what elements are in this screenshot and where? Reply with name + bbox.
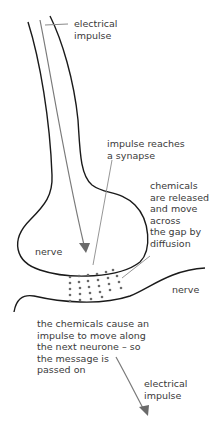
label-impulse-reaches: impulse reaches a synapse: [107, 138, 185, 161]
label-chemicals-cause: the chemicals cause an impulse to move a…: [37, 318, 149, 376]
arrow-head-top: [79, 243, 90, 253]
label-electrical-impulse-bottom: electrical impulse: [144, 378, 188, 401]
impulse-arrow-top: [40, 20, 84, 245]
label-nerve-right: nerve: [172, 284, 199, 296]
leader-impulse-reaches: [93, 160, 112, 265]
label-nerve-left: nerve: [35, 246, 62, 258]
label-chemicals-released: chemicals are released and move across t…: [150, 180, 209, 249]
label-electrical-impulse-top: electrical impulse: [74, 18, 118, 41]
leader-electrical-top: [45, 24, 68, 25]
neurotransmitter-dots: [69, 269, 123, 303]
arrow-head-bottom: [139, 405, 149, 416]
leader-chemicals: [122, 256, 150, 278]
